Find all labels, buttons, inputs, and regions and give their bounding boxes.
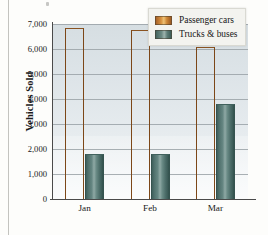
bar-feb-series-2 [151, 154, 170, 200]
bar-mar-series-1 [196, 47, 215, 200]
x-axis-tick-label: Mar [187, 203, 243, 213]
legend-item-trucks-buses: Trucks & buses [155, 27, 238, 41]
legend-label: Passenger cars [179, 15, 234, 25]
y-axis-tick-label: 0 [1, 194, 47, 204]
x-axis-tick-label: Feb [122, 203, 178, 213]
y-axis-tick-label: 7,000 [1, 19, 47, 29]
bar-jan-series-2 [85, 154, 104, 199]
x-axis-tick-label: Jan [57, 203, 113, 213]
chart-figure: Vehicles Sold 7,0006,0005,0004,0003,0002… [0, 0, 268, 235]
y-axis-tick-label: 2,000 [1, 144, 47, 154]
scan-artifact-speck [46, 2, 49, 6]
y-axis-tick-label: 6,000 [1, 44, 47, 54]
bar-feb-series-1 [131, 30, 150, 199]
x-axis-line [50, 199, 256, 200]
y-axis-tick-label: 5,000 [1, 69, 47, 79]
legend-swatch-icon-passenger-cars [155, 16, 172, 25]
legend-item-passenger-cars: Passenger cars [155, 13, 238, 27]
bar-jan-series-1 [65, 28, 84, 199]
y-axis-line [52, 22, 53, 200]
chart-legend: Passenger cars Trucks & buses [148, 8, 246, 46]
bar-mar-series-2 [216, 104, 235, 199]
y-axis-tick-label: 3,000 [1, 119, 47, 129]
plot-area [52, 24, 248, 199]
legend-label: Trucks & buses [179, 29, 238, 39]
y-axis-tick-label: 1,000 [1, 169, 47, 179]
y-axis-tick-label: 4,000 [1, 94, 47, 104]
legend-swatch-icon-trucks-buses [155, 30, 172, 39]
